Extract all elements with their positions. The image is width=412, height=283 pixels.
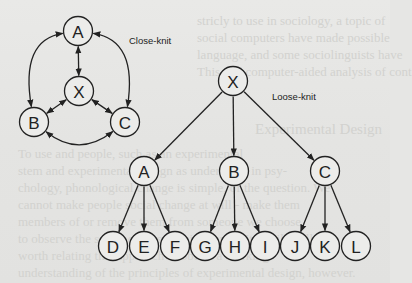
close-knit-edge-a-c	[93, 33, 129, 106]
close-knit-edge-x-b	[47, 100, 66, 113]
loose-knit-edge-x-b	[233, 96, 234, 155]
node-label: H	[229, 238, 241, 257]
loose-knit-label: Loose-knit	[272, 91, 316, 102]
node-label: D	[107, 238, 119, 257]
loose-knit-edge-a-f	[150, 185, 169, 231]
loose-knit-node-k: K	[311, 232, 340, 261]
loose-knit-node-d: D	[99, 232, 128, 261]
loose-knit-node-f: F	[161, 232, 190, 261]
nodes-layer: AXBCXABCDEFGHIJKL	[20, 17, 371, 261]
node-label: G	[198, 238, 211, 257]
loose-knit-edge-b-h	[234, 186, 235, 230]
loose-knit-edge-b-g	[211, 185, 229, 231]
loose-knit-edge-c-l	[331, 185, 350, 231]
loose-knit-node-x: X	[219, 67, 248, 96]
loose-knit-node-c: C	[311, 157, 340, 186]
node-label: A	[72, 23, 84, 42]
close-knit-node-a: A	[64, 17, 93, 46]
node-label: F	[170, 238, 180, 257]
node-label: E	[138, 238, 149, 257]
node-label: K	[319, 238, 331, 257]
loose-knit-edge-b-i	[240, 185, 259, 231]
node-label: X	[73, 83, 84, 102]
loose-knit-edge-x-a	[155, 92, 222, 160]
node-label: A	[138, 163, 150, 182]
node-label: B	[228, 163, 239, 182]
close-knit-node-b: B	[20, 108, 49, 137]
loose-knit-node-h: H	[221, 232, 250, 261]
loose-knit-node-i: I	[251, 232, 280, 261]
loose-knit-node-l: L	[342, 232, 371, 261]
node-label: C	[319, 163, 331, 182]
loose-knit-node-g: G	[191, 232, 220, 261]
loose-knit-node-j: J	[281, 232, 310, 261]
loose-knit-edge-a-d	[119, 185, 138, 231]
loose-knit-node-e: E	[130, 232, 159, 261]
close-knit-edge-b-c	[46, 132, 113, 145]
node-label: I	[263, 238, 268, 257]
node-label: J	[291, 238, 300, 257]
close-knit-edge-x-c	[92, 100, 112, 114]
loose-knit-edge-x-c	[244, 92, 314, 160]
edges-layer	[29, 33, 350, 231]
loose-knit-node-b: B	[220, 157, 249, 186]
node-label: C	[119, 114, 131, 133]
close-knit-node-c: C	[111, 108, 140, 137]
close-knit-label: Close-knit	[129, 35, 172, 46]
close-knit-edge-a-b	[29, 33, 63, 106]
node-label: L	[351, 238, 360, 257]
node-label: X	[227, 73, 238, 92]
node-label: B	[28, 114, 39, 133]
close-knit-node-x: X	[65, 77, 94, 106]
loose-knit-edge-c-j	[301, 185, 319, 231]
loose-knit-node-a: A	[130, 157, 159, 186]
